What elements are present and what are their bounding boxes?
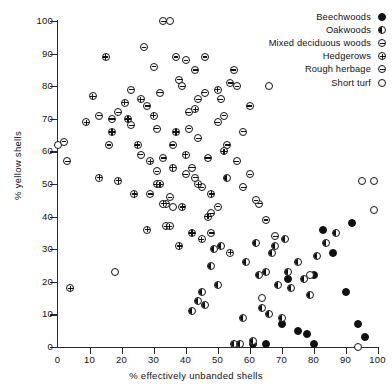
data-point [182, 151, 190, 159]
x-tick-20 [122, 347, 123, 354]
data-point [271, 242, 279, 250]
data-point [313, 252, 321, 260]
data-point [172, 128, 180, 136]
x-tick-label-70: 70 [265, 354, 299, 365]
data-point [159, 200, 167, 208]
x-tick-10 [90, 347, 91, 354]
data-point [348, 219, 356, 227]
data-point [204, 213, 212, 221]
data-point [114, 108, 122, 116]
data-point [262, 216, 270, 224]
legend-item-label: Short turf [331, 78, 371, 88]
data-point [156, 180, 164, 188]
data-point [262, 268, 270, 276]
data-point [265, 310, 273, 318]
data-point [329, 249, 337, 257]
scatter-plot-figure: 0102030405060708090100 01020304050607080… [0, 0, 392, 391]
data-point [140, 43, 148, 51]
x-tick-label-50: 50 [201, 354, 235, 365]
y-tick-label-30: 30 [23, 243, 53, 254]
data-point [214, 118, 222, 126]
data-point [214, 281, 222, 289]
legend-item-mixed-deciduous-woods: Mixed deciduous woods [208, 36, 386, 49]
data-point [134, 141, 142, 149]
data-point [191, 174, 199, 182]
data-point [332, 229, 340, 237]
data-point [319, 226, 327, 234]
x-tick-50 [218, 347, 219, 354]
x-tick-70 [282, 347, 283, 354]
data-point [223, 174, 231, 182]
data-point [108, 128, 116, 136]
data-point [194, 95, 202, 103]
x-tick-label-30: 30 [137, 354, 171, 365]
legend: BeechwoodsOakwoodsMixed deciduous woodsH… [208, 10, 386, 89]
data-point [354, 320, 362, 328]
y-tick-label-10: 10 [23, 308, 53, 319]
legend-item-oakwoods: Oakwoods [208, 23, 386, 36]
legend-item-label: Mixed deciduous woods [269, 38, 371, 48]
data-point [194, 134, 202, 142]
data-point [150, 112, 158, 120]
x-tick-40 [186, 347, 187, 354]
data-point [294, 327, 302, 335]
x-tick-label-40: 40 [169, 354, 203, 365]
data-point [214, 203, 222, 211]
data-point [271, 232, 279, 240]
legend-item-label: Oakwoods [326, 25, 371, 35]
y-tick-label-70: 70 [23, 113, 53, 124]
data-point [236, 340, 244, 348]
data-point [105, 141, 113, 149]
data-point [188, 164, 196, 172]
data-point [146, 157, 154, 165]
data-point [178, 203, 186, 211]
x-tick-label-60: 60 [233, 354, 267, 365]
data-point [124, 115, 132, 123]
data-point [166, 222, 174, 230]
data-point [63, 157, 71, 165]
y-tick-label-0: 0 [23, 341, 53, 352]
data-point [169, 164, 177, 172]
x-tick-label-90: 90 [329, 354, 363, 365]
data-point [153, 125, 161, 133]
data-point [204, 154, 212, 162]
data-point [258, 294, 266, 302]
data-point [166, 17, 174, 25]
data-point [66, 284, 74, 292]
data-point [281, 235, 289, 243]
data-point [95, 112, 103, 120]
data-point [207, 229, 215, 237]
data-point [220, 147, 228, 155]
data-point [156, 89, 164, 97]
x-tick-90 [346, 347, 347, 354]
data-point [89, 92, 97, 100]
data-point [188, 307, 196, 315]
data-point [182, 56, 190, 64]
data-point [150, 63, 158, 71]
data-point [278, 314, 286, 322]
data-point [207, 262, 215, 270]
data-point [342, 288, 350, 296]
legend-item-short-turf: Short turf [208, 76, 386, 89]
data-point [207, 190, 215, 198]
data-point [201, 89, 209, 97]
data-point [284, 268, 292, 276]
data-point [226, 249, 234, 257]
y-tick-label-40: 40 [23, 211, 53, 222]
data-point [274, 281, 282, 289]
data-point [111, 268, 119, 276]
data-point [201, 301, 209, 309]
data-point [358, 177, 366, 185]
data-point [287, 284, 295, 292]
data-point [322, 239, 330, 247]
legend-item-label: Hedgerows [323, 51, 371, 61]
legend-item-label: Rough herbage [305, 64, 371, 74]
data-point [182, 170, 190, 178]
legend-item-beechwoods: Beechwoods [208, 10, 386, 23]
open-circle-icon [378, 79, 386, 87]
x-tick-label-0: 0 [41, 354, 75, 365]
data-point [146, 190, 154, 198]
legend-item-rough-herbage: Rough herbage [208, 63, 386, 76]
data-point [310, 340, 318, 348]
data-point [185, 125, 193, 133]
